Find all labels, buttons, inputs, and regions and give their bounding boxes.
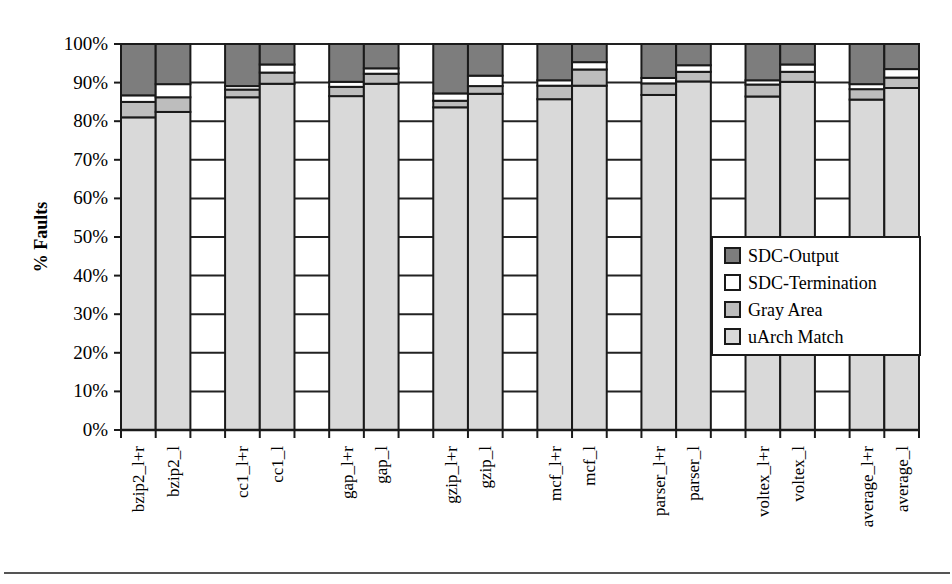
x-tick-label: gap_l [372,446,391,484]
bar-segment-gray-area [780,72,815,82]
bar-stack [572,44,607,430]
bar-segment-gray-area [746,85,781,97]
bar-segment-gray-area [260,73,295,84]
bar-stack [537,44,572,430]
x-tick-label: average_l+r [858,446,877,528]
legend-item: Gray Area [725,300,822,320]
bar-segment-sdc-termination [433,93,468,100]
bar-segment-sdc-output [780,44,815,64]
bar-stack [225,44,260,430]
bar-segment-sdc-termination [780,64,815,71]
bar-segment-gray-area [364,74,399,84]
bar-segment-uarch-match [468,94,503,430]
x-tick-label: voltex_l+r [754,446,773,517]
bar-segment-gray-area [121,102,156,117]
x-tick-label: bzip2_l [164,446,183,497]
bar-segment-sdc-output [225,44,260,86]
bar-stack [468,44,503,430]
legend-swatch-icon [725,248,740,263]
bar-stack [364,44,399,430]
bar-segment-gray-area [572,69,607,85]
bar-segment-sdc-output [329,44,364,82]
bar-segment-sdc-output [884,44,919,69]
bar-segment-uarch-match [537,99,572,430]
bar-stack [433,44,468,430]
x-tick-label: mcf_l+r [546,446,565,501]
legend: SDC-OutputSDC-TerminationGray AreauArch … [712,237,920,355]
bar-segment-uarch-match [121,117,156,430]
bar-segment-sdc-output [364,44,399,68]
bar-segment-sdc-output [746,44,781,80]
bar-segment-uarch-match [260,84,295,430]
bar-segment-uarch-match [156,112,191,430]
bar-segment-sdc-output [641,44,676,78]
bar-segment-sdc-output [468,44,503,76]
bar-segment-uarch-match [572,86,607,430]
bar-segment-sdc-output [260,44,295,64]
bar-segment-gray-area [468,86,503,94]
bar-segment-sdc-output [156,44,191,84]
legend-item: SDC-Termination [725,273,877,293]
bar-segment-sdc-termination [156,84,191,97]
bar-segment-uarch-match [225,97,260,430]
bar-stack [641,44,676,430]
bar-segment-sdc-termination [260,64,295,72]
x-tick-label: gzip_l+r [442,446,461,504]
x-tick-label: parser_l+r [650,446,669,516]
bar-segment-gray-area [641,83,676,95]
y-tick-label: 90% [73,72,108,93]
bar-segment-uarch-match [433,107,468,430]
bar-segment-gray-area [225,90,260,98]
bar-segment-gray-area [676,72,711,82]
page-divider-rule [4,572,950,574]
y-tick-label: 60% [73,187,108,208]
bar-stack [260,44,295,430]
x-tick-label: gap_l+r [338,446,357,499]
x-tick-label: average_l [893,446,912,512]
bar-segment-gray-area [156,97,191,112]
y-tick-label: 100% [64,33,109,54]
x-tick-label: gzip_l [476,446,495,489]
x-tick-label: cc1_l+r [233,446,252,498]
bar-segment-sdc-termination [572,62,607,69]
legend-label: uArch Match [748,327,843,347]
bar-stack [676,44,711,430]
bar-segment-sdc-termination [884,69,919,77]
y-tick-label: 70% [73,149,108,170]
legend-swatch-icon [725,275,740,290]
y-tick-label: 20% [73,342,108,363]
bar-segment-sdc-output [850,44,885,84]
bar-stack [329,44,364,430]
x-tick-label: cc1_l [268,446,287,483]
bar-segment-uarch-match [641,95,676,430]
y-tick-label: 50% [73,226,108,247]
x-tick-label: bzip2_l+r [129,446,148,513]
bar-segment-gray-area [537,86,572,100]
legend-label: Gray Area [748,300,822,320]
y-tick-label: 30% [73,303,108,324]
y-tick-label: 10% [73,380,108,401]
stacked-bar-chart: 0%10%20%30%40%50%60%70%80%90%100% bzip2_… [0,0,952,584]
legend-swatch-icon [725,302,740,317]
x-tick-label: mcf_l [580,446,599,486]
bar-stack [156,44,191,430]
x-tick-label: parser_l [684,446,703,501]
bar-segment-uarch-match [329,96,364,430]
bar-segment-sdc-output [121,44,156,95]
y-axis-ticks: 0%10%20%30%40%50%60%70%80%90%100% [64,33,121,440]
bar-segment-sdc-output [537,44,572,80]
x-tick-label: voltex_l [789,446,808,502]
bar-segment-uarch-match [676,81,711,430]
bar-segment-sdc-output [433,44,468,93]
bar-stack [121,44,156,430]
y-axis-title: % Faults [31,202,51,273]
x-axis-ticks: bzip2_l+rbzip2_lcc1_l+rcc1_lgap_l+rgap_l… [121,430,919,527]
y-tick-label: 80% [73,110,108,131]
bar-segment-gray-area [884,78,919,88]
bar-segment-gray-area [850,89,885,99]
bar-segment-sdc-output [676,44,711,65]
bar-segment-sdc-termination [468,76,503,86]
legend-label: SDC-Termination [748,273,877,293]
y-tick-label: 40% [73,265,108,286]
bar-segment-gray-area [329,87,364,96]
